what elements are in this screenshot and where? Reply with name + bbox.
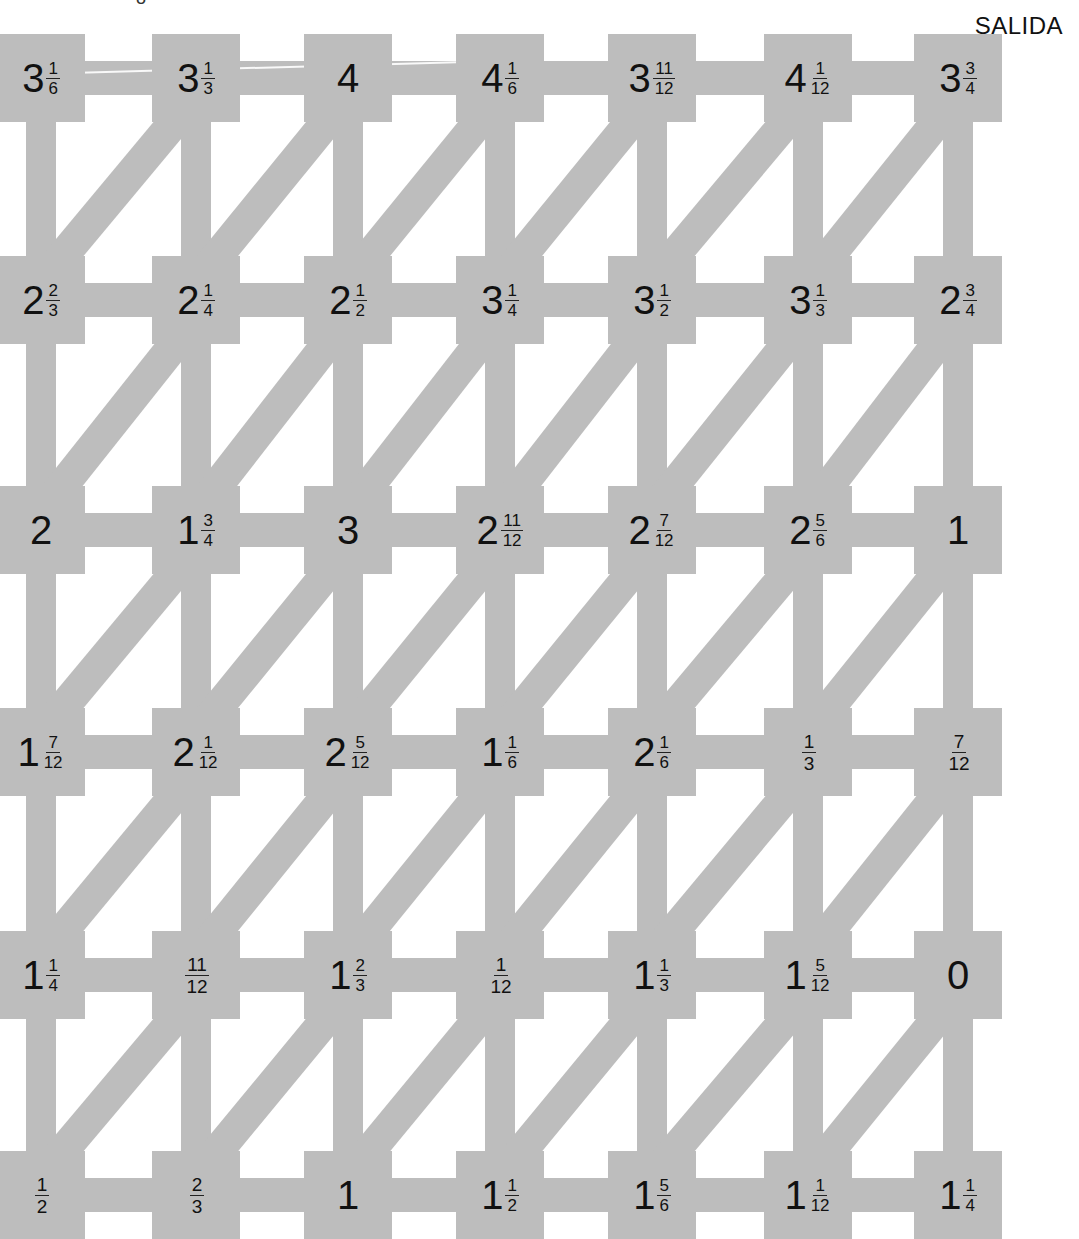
whole-number: 2 (628, 510, 650, 550)
numerator: 1 (505, 1177, 518, 1196)
fraction: 112 (809, 1177, 832, 1214)
node-r1-c1[interactable]: 316 (0, 34, 85, 122)
node-value: 13 (800, 732, 817, 773)
node-value: 2712 (628, 510, 675, 550)
node-r5-c4[interactable]: 112 (456, 931, 544, 1019)
diagonal-path (358, 560, 490, 722)
node-value: 21112 (476, 510, 523, 550)
denominator: 3 (201, 79, 214, 97)
node-value: 312 (633, 280, 671, 320)
denominator: 6 (505, 753, 518, 771)
node-value: 1712 (17, 732, 64, 772)
node-value: 3 (337, 510, 359, 550)
numerator: 1 (505, 734, 518, 753)
node-r3-c3[interactable]: 3 (304, 486, 392, 574)
node-r6-c6[interactable]: 1112 (764, 1151, 852, 1239)
node-r4-c6[interactable]: 13 (764, 708, 852, 796)
node-r4-c1[interactable]: 1712 (0, 708, 85, 796)
diagonal-path (662, 560, 798, 722)
node-r3-c4[interactable]: 21112 (456, 486, 544, 574)
node-r4-c7[interactable]: 712 (914, 708, 1002, 796)
node-r1-c5[interactable]: 31112 (608, 34, 696, 122)
node-r1-c3[interactable]: 4 (304, 34, 392, 122)
node-r4-c2[interactable]: 2112 (152, 708, 240, 796)
node-r5-c1[interactable]: 114 (0, 931, 85, 1019)
node-r1-c2[interactable]: 313 (152, 34, 240, 122)
node-r6-c2[interactable]: 23 (152, 1151, 240, 1239)
denominator: 12 (809, 79, 832, 97)
node-r6-c4[interactable]: 112 (456, 1151, 544, 1239)
node-r6-c3[interactable]: 1 (304, 1151, 392, 1239)
node-r4-c3[interactable]: 2512 (304, 708, 392, 796)
denominator: 2 (35, 1196, 50, 1216)
node-r2-c1[interactable]: 223 (0, 256, 85, 344)
fraction: 34 (963, 60, 976, 97)
node-value: 256 (789, 510, 827, 550)
numerator: 5 (813, 512, 826, 531)
node-r2-c5[interactable]: 312 (608, 256, 696, 344)
node-r4-c5[interactable]: 216 (608, 708, 696, 796)
denominator: 12 (809, 1196, 832, 1214)
denominator: 3 (190, 1196, 205, 1216)
node-r3-c5[interactable]: 2712 (608, 486, 696, 574)
whole-number: 2 (177, 280, 199, 320)
node-r5-c5[interactable]: 113 (608, 931, 696, 1019)
node-r1-c7[interactable]: 334 (914, 34, 1002, 122)
denominator: 6 (657, 1196, 670, 1214)
node-r2-c7[interactable]: 234 (914, 256, 1002, 344)
whole-number: 1 (481, 732, 503, 772)
node-r3-c2[interactable]: 134 (152, 486, 240, 574)
whole-number: 3 (789, 280, 811, 320)
node-r4-c4[interactable]: 116 (456, 708, 544, 796)
denominator: 2 (505, 1196, 518, 1214)
numerator: 7 (952, 732, 967, 753)
denominator: 12 (349, 753, 372, 771)
fraction: 23 (46, 282, 59, 319)
node-r1-c4[interactable]: 416 (456, 34, 544, 122)
node-r2-c2[interactable]: 214 (152, 256, 240, 344)
node-r5-c2[interactable]: 1112 (152, 931, 240, 1019)
denominator: 12 (809, 976, 832, 994)
whole-number: 2 (30, 510, 52, 550)
node-value: 4 (337, 58, 359, 98)
node-value: 313 (177, 58, 215, 98)
node-r3-c7[interactable]: 1 (914, 486, 1002, 574)
diagonal-path (662, 782, 798, 945)
node-r5-c7[interactable]: 0 (914, 931, 1002, 1019)
fraction: 1112 (653, 60, 676, 97)
node-r6-c7[interactable]: 114 (914, 1151, 1002, 1239)
numerator: 1 (813, 282, 826, 301)
node-r1-c6[interactable]: 4112 (764, 34, 852, 122)
node-value: 112 (481, 1175, 519, 1215)
node-r2-c6[interactable]: 313 (764, 256, 852, 344)
numerator: 7 (657, 512, 670, 531)
node-r3-c1[interactable]: 2 (0, 486, 85, 574)
denominator: 12 (946, 753, 971, 773)
node-r6-c1[interactable]: 12 (0, 1151, 85, 1239)
diagonal-path (662, 108, 798, 270)
node-r3-c6[interactable]: 256 (764, 486, 852, 574)
fraction: 12 (657, 282, 670, 319)
denominator: 4 (963, 79, 976, 97)
whole-number: 1 (22, 955, 44, 995)
fraction: 12 (353, 282, 366, 319)
whole-number: 1 (947, 510, 969, 550)
node-r5-c3[interactable]: 123 (304, 931, 392, 1019)
node-r6-c5[interactable]: 156 (608, 1151, 696, 1239)
diagonal-path (51, 1005, 186, 1165)
node-value: 314 (481, 280, 519, 320)
node-r2-c4[interactable]: 314 (456, 256, 544, 344)
numerator: 7 (46, 734, 59, 753)
diagonal-path (510, 1005, 642, 1165)
fraction: 16 (657, 734, 670, 771)
diagonal-path (818, 330, 948, 500)
node-r2-c3[interactable]: 212 (304, 256, 392, 344)
fraction: 13 (201, 60, 214, 97)
node-value: 234 (939, 280, 977, 320)
diagonal-path (358, 1005, 490, 1165)
numerator: 1 (657, 282, 670, 301)
numerator: 5 (657, 1177, 670, 1196)
node-r5-c6[interactable]: 1512 (764, 931, 852, 1019)
node-value: 2 (30, 510, 52, 550)
diagonal-path (51, 782, 186, 945)
